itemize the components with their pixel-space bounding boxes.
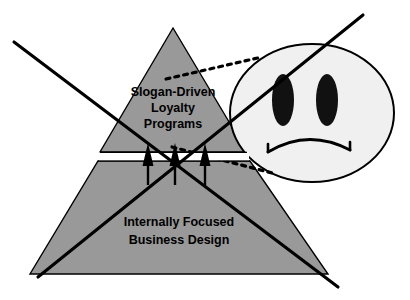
lower-pyramid-label-line1: Internally Focused	[124, 215, 234, 229]
upper-pyramid-label-line2: Loyalty	[151, 101, 195, 115]
unhappy-customer-face	[230, 44, 394, 182]
right-eye-icon	[316, 74, 338, 126]
left-eye-icon	[272, 74, 294, 126]
upper-pyramid-label-line3: Programs	[144, 117, 202, 131]
upper-pyramid-label-line1: Slogan-Driven	[131, 85, 216, 99]
face-outline-circle	[230, 44, 394, 182]
diagram-canvas: Slogan-Driven Loyalty Programs Internall…	[0, 0, 410, 300]
lower-pyramid-label-line2: Business Design	[129, 233, 230, 247]
diagram-illustration: Slogan-Driven Loyalty Programs Internall…	[0, 0, 410, 300]
